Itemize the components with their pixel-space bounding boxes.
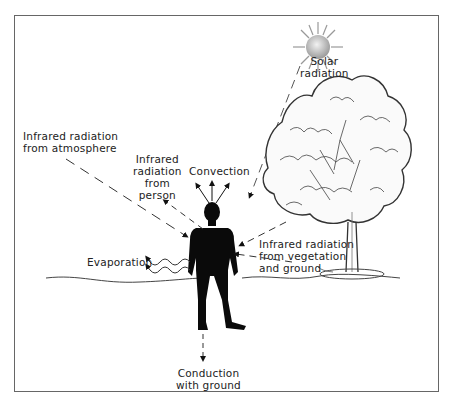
label-line: from vegetation [259, 250, 354, 262]
label-line: radiation [133, 165, 182, 177]
label-line: from [133, 177, 182, 189]
label-ir-person: Infrared radiation from person [133, 153, 182, 201]
label-line: radiation [300, 67, 349, 79]
label-line: Infrared [133, 153, 182, 165]
label-evaporation: Evaporation [87, 256, 152, 268]
label-solar-radiation: Solar radiation [300, 55, 349, 79]
label-line: with ground [176, 379, 241, 391]
label-ir-vegetation: Infrared radiation from vegetation and g… [259, 238, 354, 274]
evaporation-arrows [147, 258, 190, 273]
label-line: and ground [259, 262, 354, 274]
label-conduction: Conduction with ground [176, 367, 241, 391]
convection-arrows [197, 183, 228, 203]
ir-person-arrow [165, 201, 203, 229]
label-line: Infrared radiation [23, 130, 118, 142]
label-line: Solar [300, 55, 349, 67]
person-silhouette-icon [188, 202, 246, 330]
diagram-artwork [0, 0, 454, 406]
label-convection: Convection [189, 165, 250, 177]
label-line: person [133, 189, 182, 201]
label-ir-atmosphere: Infrared radiation from atmosphere [23, 130, 118, 154]
label-line: Conduction [176, 367, 241, 379]
label-line: Infrared radiation [259, 238, 354, 250]
label-line: from atmosphere [23, 142, 118, 154]
